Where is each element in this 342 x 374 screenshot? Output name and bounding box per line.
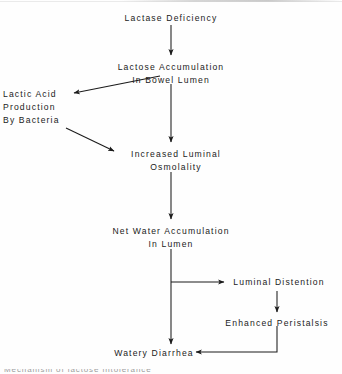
node-line: Increased Luminal <box>131 148 221 161</box>
node-enhanced-peristalsis: Enhanced Peristalsis <box>225 317 328 330</box>
node-increased-luminal-osmolality: Increased Luminal Osmolality <box>131 148 221 174</box>
node-watery-diarrhea: Watery Diarrhea <box>114 347 194 360</box>
node-line: By Bacteria <box>3 114 60 127</box>
node-line: In Lumen <box>112 238 229 251</box>
node-line: Enhanced Peristalsis <box>225 317 328 330</box>
node-line: Production <box>3 101 60 114</box>
node-line: Luminal Distention <box>233 276 324 289</box>
node-line: Lactase Deficiency <box>125 12 218 25</box>
node-lactic-acid-production: Lactic Acid Production By Bacteria <box>3 88 60 127</box>
node-luminal-distention: Luminal Distention <box>233 276 324 289</box>
node-line: Watery Diarrhea <box>114 347 194 360</box>
node-lactase-deficiency: Lactase Deficiency <box>125 12 218 25</box>
node-line: Net Water Accumulation <box>112 225 229 238</box>
node-line: Osmolality <box>131 161 221 174</box>
node-net-water-accumulation: Net Water Accumulation In Lumen <box>112 225 229 251</box>
node-line: Lactose Accumulation <box>118 61 225 74</box>
edge-lactic-acid-to-osmolality <box>66 128 114 151</box>
caption-remnant: Mechanism of lactose intolerance <box>4 369 184 374</box>
node-lactose-accumulation: Lactose Accumulation In Bowel Lumen <box>118 61 225 87</box>
caption-remnant-text: Mechanism of lactose intolerance <box>4 369 184 374</box>
node-line: In Bowel Lumen <box>118 74 225 87</box>
flowchart-diagram: Lactase Deficiency Lactose Accumulation … <box>0 0 342 374</box>
node-line: Lactic Acid <box>3 88 60 101</box>
